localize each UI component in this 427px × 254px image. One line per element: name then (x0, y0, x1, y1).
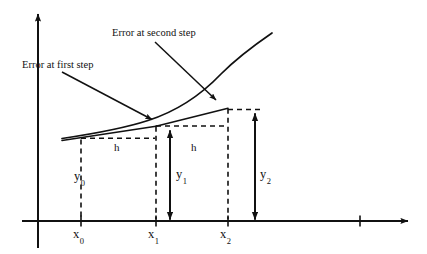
x0-subscript: 0 (80, 236, 84, 246)
y0-subscript: 0 (81, 178, 85, 188)
error-first-leader (62, 72, 152, 120)
euler-step-2-segment (156, 108, 228, 126)
x1-base: x (148, 227, 154, 241)
y0-value-label: y0 (74, 170, 85, 185)
y0-base: y (74, 169, 80, 183)
construction-dashes (81, 109, 263, 219)
y2-subscript: 2 (267, 176, 271, 186)
exact-solution-curve (62, 33, 272, 139)
euler-error-diagram: Error at first step Error at second step… (0, 0, 427, 254)
x0-base: x (73, 227, 79, 241)
error-second-step-label: Error at second step (112, 28, 196, 39)
diagram-canvas (0, 0, 427, 254)
y1-value-label: y1 (176, 168, 187, 183)
x1-axis-label: x1 (148, 228, 159, 243)
x2-subscript: 2 (227, 236, 231, 246)
x1-subscript: 1 (155, 236, 159, 246)
axes-group (22, 14, 408, 248)
y1-subscript: 1 (183, 176, 187, 186)
error-first-step-label: Error at first step (22, 60, 93, 71)
y2-base: y (260, 167, 266, 181)
error-second-leader (155, 42, 216, 100)
x2-base: x (220, 227, 226, 241)
y2-value-label: y2 (260, 168, 271, 183)
y1-base: y (176, 167, 182, 181)
x0-axis-label: x0 (73, 228, 84, 243)
h-label-first-step: h (114, 142, 120, 153)
x2-axis-label: x2 (220, 228, 231, 243)
h-label-second-step: h (191, 142, 197, 153)
